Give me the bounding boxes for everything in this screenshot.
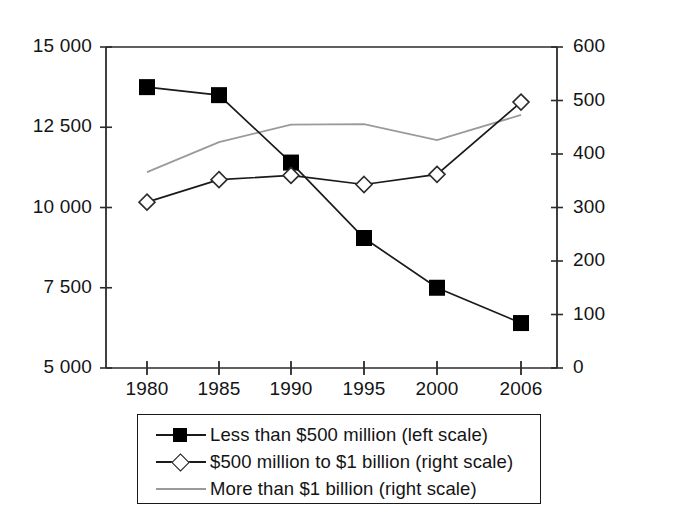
- legend-symbol-gray-line: [152, 477, 210, 501]
- series-line-2: [147, 115, 521, 172]
- legend-symbol-square-line: [152, 423, 210, 447]
- axis-layer: [100, 47, 563, 375]
- x-tick-label: 1995: [324, 378, 404, 400]
- y-left-tick-label: 15 000: [33, 35, 92, 57]
- data-point-square: [139, 79, 155, 95]
- legend-label: $500 million to $1 billion (right scale): [210, 451, 513, 473]
- data-point-square: [356, 230, 372, 246]
- series-0: [139, 79, 529, 331]
- y-right-tick-label: 300: [573, 196, 605, 218]
- x-tick-label: 1990: [251, 378, 331, 400]
- x-tick-label: 1985: [179, 378, 259, 400]
- chart-figure: 5 0007 50010 00012 50015 000 01002003004…: [0, 0, 681, 532]
- y-right-tick-label: 600: [573, 35, 605, 57]
- data-point-diamond: [139, 194, 155, 210]
- y-right-tick-label: 200: [573, 249, 605, 271]
- data-point-square: [513, 315, 529, 331]
- data-point-square: [211, 87, 227, 103]
- legend-symbol-diamond-line: [152, 450, 210, 474]
- series-line-1: [147, 102, 521, 202]
- y-right-tick-label: 400: [573, 142, 605, 164]
- x-tick-label: 1980: [107, 378, 187, 400]
- data-point-square: [429, 280, 445, 296]
- data-point-diamond: [211, 172, 227, 188]
- legend-item: Less than $500 million (left scale): [138, 421, 540, 449]
- data-point-diamond: [356, 176, 372, 192]
- y-left-tick-label: 12 500: [33, 115, 92, 137]
- legend-item: $500 million to $1 billion (right scale): [138, 448, 540, 476]
- chart-legend: Less than $500 million (left scale)$500 …: [137, 414, 541, 504]
- y-right-tick-label: 500: [573, 89, 605, 111]
- y-left-tick-label: 5 000: [43, 356, 92, 378]
- y-right-tick-label: 0: [573, 356, 584, 378]
- legend-label: Less than $500 million (left scale): [210, 424, 488, 446]
- legend-marker-square-icon: [173, 428, 187, 442]
- series-layer: [139, 79, 529, 331]
- y-right-tick-label: 100: [573, 303, 605, 325]
- y-left-tick-label: 7 500: [43, 276, 92, 298]
- x-tick-label: 2000: [397, 378, 477, 400]
- legend-label: More than $1 billion (right scale): [210, 478, 477, 500]
- y-left-tick-label: 10 000: [33, 196, 92, 218]
- series-2: [147, 115, 521, 172]
- x-tick-label: 2006: [481, 378, 561, 400]
- legend-line: [156, 488, 206, 490]
- legend-marker-diamond-icon: [171, 453, 189, 471]
- legend-item: More than $1 billion (right scale): [138, 475, 540, 503]
- series-line-0: [147, 87, 521, 323]
